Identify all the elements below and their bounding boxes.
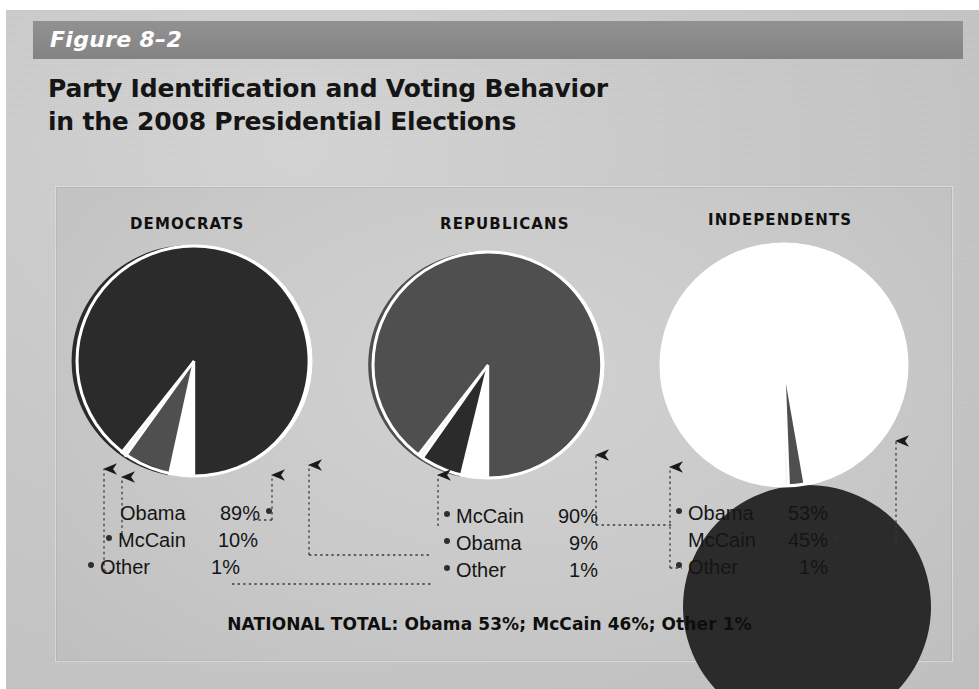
label-dot-dem-mccain [106, 535, 112, 541]
label-dem-mccain-name: McCain [118, 529, 204, 552]
label-rep-obama-value: 9% [542, 532, 598, 555]
label-dot-ind-other [676, 562, 682, 568]
pie-chart-democrats [72, 239, 316, 483]
label-row-dem-other: Other 1% [88, 556, 272, 583]
figure-number-label: Figure 8–2 [50, 27, 182, 52]
label-row-dem-mccain: McCain 10% [106, 529, 272, 556]
pie-chart-republicans [368, 245, 608, 485]
label-rep-other-name: Other [456, 559, 542, 582]
labels-democrats: Obama 89% McCain 10% Other 1% [120, 502, 272, 583]
label-rep-mccain-name: McCain [456, 505, 542, 528]
label-row-rep-mccain: McCain 90% [444, 505, 598, 532]
label-ind-mccain-value: 45% [772, 529, 828, 552]
group-title-democrats: DEMOCRATS [130, 215, 244, 233]
label-dot-ind-mccain [834, 535, 840, 541]
figure-title-line-1: Party Identification and Voting Behavior [48, 72, 808, 105]
label-row-dem-obama: Obama 89% [120, 502, 272, 529]
labels-republicans: McCain 90% Obama 9% Other 1% [444, 505, 598, 586]
label-rep-other-value: 1% [542, 559, 598, 582]
label-dem-other-name: Other [100, 556, 186, 579]
group-title-independents: INDEPENDENTS [708, 211, 852, 229]
label-row-rep-other: Other 1% [444, 559, 598, 586]
label-dem-mccain-value: 10% [204, 529, 258, 552]
label-dot-ind-obama [676, 508, 682, 514]
label-dem-other-value: 1% [186, 556, 240, 579]
label-dot-rep-other [444, 565, 450, 571]
label-ind-other-name: Other [688, 556, 772, 579]
group-title-republicans: REPUBLICANS [440, 215, 570, 233]
figure-banner: Figure 8–2 [33, 21, 963, 59]
figure-container: Figure 8–2 Party Identification and Voti… [0, 0, 979, 689]
label-dot-dem-obama [266, 508, 272, 514]
label-row-ind-obama: Obama 53% [676, 502, 840, 529]
label-dem-obama-name: Obama [120, 502, 206, 525]
figure-title: Party Identification and Voting Behavior… [48, 72, 808, 138]
pie-chart-independents [656, 237, 912, 493]
label-ind-mccain-name: McCain [688, 529, 772, 552]
national-total-caption: NATIONAL TOTAL: Obama 53%; McCain 46%; O… [0, 614, 979, 634]
label-rep-obama-name: Obama [456, 532, 542, 555]
label-dot-dem-other [88, 562, 94, 568]
label-dem-obama-value: 89% [206, 502, 260, 525]
label-ind-other-value: 1% [772, 556, 828, 579]
label-dot-rep-obama [444, 538, 450, 544]
label-rep-mccain-value: 90% [542, 505, 598, 528]
figure-title-line-2: in the 2008 Presidential Elections [48, 105, 808, 138]
label-row-rep-obama: Obama 9% [444, 532, 598, 559]
label-dot-rep-mccain [444, 511, 450, 517]
chart-panel: DEMOCRATS [55, 186, 953, 662]
label-row-ind-mccain: McCain 45% [688, 529, 840, 556]
label-ind-obama-name: Obama [688, 502, 772, 525]
labels-independents: Obama 53% McCain 45% Other 1% [676, 502, 840, 583]
label-row-ind-other: Other 1% [676, 556, 840, 583]
label-ind-obama-value: 53% [772, 502, 828, 525]
